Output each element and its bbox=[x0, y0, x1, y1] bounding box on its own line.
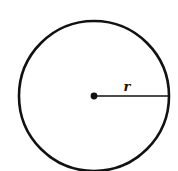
radius-label: r bbox=[124, 79, 132, 94]
center-point bbox=[91, 93, 98, 100]
circle-radius-diagram: r bbox=[0, 0, 178, 171]
